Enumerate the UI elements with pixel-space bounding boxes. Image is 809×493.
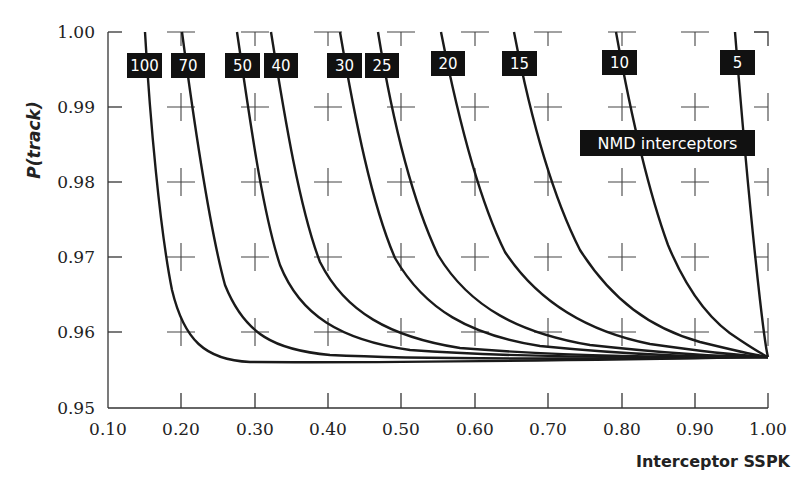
y-ticks: [108, 107, 122, 332]
svg-text:40: 40: [271, 57, 290, 75]
svg-text:NMD interceptors: NMD interceptors: [598, 134, 738, 153]
curve-40: [271, 32, 768, 357]
series-label-50: 50: [225, 53, 260, 78]
series-label-5: 5: [720, 50, 755, 75]
x-tick-0.70: 0.70: [529, 419, 567, 439]
y-tick-labels: 1.00 0.99 0.98 0.97 0.96 0.95: [57, 22, 95, 418]
x-tick-0.80: 0.80: [603, 419, 641, 439]
series-label-25: 25: [365, 53, 399, 78]
curves: [145, 32, 768, 362]
series-label-100: 100: [127, 53, 162, 78]
chart: P(track) 1.00 0.99 0.98 0.97 0.96 0.95 0: [0, 0, 809, 493]
x-tick-0.50: 0.50: [382, 419, 420, 439]
svg-text:25: 25: [372, 57, 391, 75]
curve-25: [378, 32, 768, 357]
x-tick-0.40: 0.40: [309, 419, 347, 439]
x-tick-0.10: 0.10: [89, 419, 127, 439]
y-tick-1.00: 1.00: [57, 22, 95, 42]
top-right-corner: [754, 32, 768, 46]
y-axis-label: P(track): [24, 101, 44, 178]
svg-text:15: 15: [510, 55, 529, 73]
y-tick-0.99: 0.99: [57, 97, 95, 117]
svg-text:100: 100: [130, 57, 159, 75]
annotation-nmd-interceptors: NMD interceptors: [580, 130, 755, 156]
x-tick-0.60: 0.60: [456, 419, 494, 439]
x-ticks: [181, 393, 695, 408]
grid-crosshairs: [167, 32, 768, 346]
series-labels: 100 70 50 40 30 25 20 15: [127, 50, 755, 78]
x-tick-0.90: 0.90: [676, 419, 714, 439]
series-label-10: 10: [602, 50, 637, 75]
y-tick-0.96: 0.96: [57, 322, 95, 342]
curve-15: [514, 32, 768, 357]
svg-text:50: 50: [233, 57, 252, 75]
series-label-15: 15: [502, 51, 537, 76]
svg-text:5: 5: [733, 54, 743, 72]
curve-10: [616, 32, 768, 357]
series-label-70: 70: [171, 53, 205, 78]
curve-50: [237, 32, 768, 357]
svg-text:70: 70: [178, 57, 197, 75]
svg-text:30: 30: [335, 57, 354, 75]
y-tick-0.95: 0.95: [57, 398, 95, 418]
y-tick-0.98: 0.98: [57, 172, 95, 192]
x-tick-0.30: 0.30: [236, 419, 274, 439]
series-label-40: 40: [264, 53, 298, 78]
x-tick-0.20: 0.20: [162, 419, 200, 439]
series-label-20: 20: [431, 51, 465, 76]
x-axis-label: Interceptor SSPK: [636, 452, 791, 471]
series-label-30: 30: [327, 53, 362, 78]
x-tick-1.00: 1.00: [749, 419, 787, 439]
curve-5: [735, 32, 768, 357]
y-tick-0.97: 0.97: [57, 247, 95, 267]
x-tick-labels: 0.10 0.20 0.30 0.40 0.50 0.60 0.70 0.80 …: [89, 419, 787, 439]
svg-text:10: 10: [610, 54, 629, 72]
svg-text:20: 20: [438, 55, 457, 73]
